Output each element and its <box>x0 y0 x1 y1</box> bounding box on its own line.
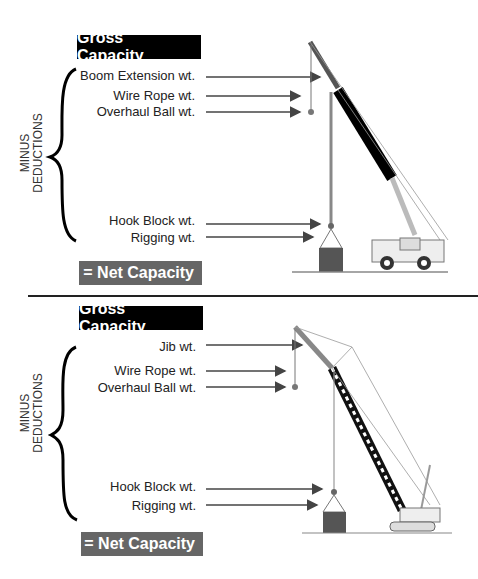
bottom-brace-icon <box>51 347 77 520</box>
diagram-graphics <box>0 0 478 579</box>
bottom-arrows <box>206 345 322 505</box>
lattice-crawler-crane-icon <box>292 327 452 533</box>
top-arrows <box>206 77 320 237</box>
top-brace-icon <box>50 69 76 241</box>
